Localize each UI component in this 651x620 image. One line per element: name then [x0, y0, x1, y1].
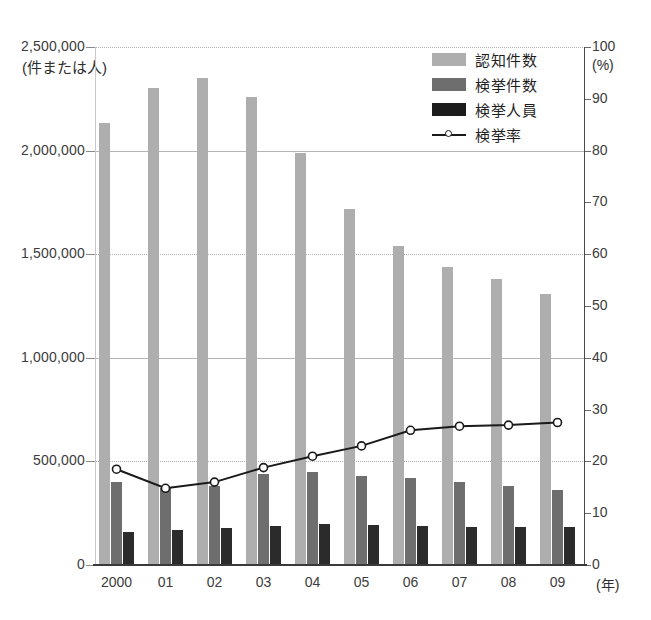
y-tick-right-20: [585, 461, 591, 462]
y-tick-right-50: [585, 306, 591, 307]
bar-09-series1: [552, 490, 563, 565]
y-axis-left-label-500000: 500,000: [33, 452, 85, 468]
y-axis-left-label-1000000: 1,000,000: [21, 349, 85, 365]
legend-item-0: 認知件数: [432, 47, 582, 72]
y-axis-right-label-20: 20: [592, 452, 608, 468]
bar-05-series1: [356, 476, 367, 565]
bar-02-series0: [197, 78, 208, 565]
legend-swatch-icon-1: [432, 78, 466, 91]
y-axis-right-label-30: 30: [592, 401, 608, 417]
y-tick-right-30: [585, 410, 591, 411]
bar-04-series2: [319, 524, 330, 565]
gridline-1000000: [95, 358, 585, 359]
y-tick-right-100: [585, 47, 591, 48]
bar-07-series1: [454, 482, 465, 565]
line-marker-04: [309, 452, 317, 460]
legend-label-3: 検挙率: [475, 124, 522, 145]
y-axis-right-line: [584, 47, 585, 565]
y-axis-right-label-90: 90: [592, 90, 608, 106]
y-tick-left-2000000: [86, 151, 95, 152]
y-axis-right-label-50: 50: [592, 297, 608, 313]
y-tick-right-70: [585, 202, 591, 203]
y-axis-left-label-2500000: 2,500,000: [21, 38, 85, 54]
bar-04-series0: [295, 153, 306, 565]
x-axis-label-09: 09: [528, 574, 588, 590]
bar-2000-series1: [111, 482, 122, 565]
x-axis-line: [93, 564, 587, 566]
legend-label-1: 検挙件数: [475, 74, 537, 95]
y-axis-left-line: [95, 47, 96, 565]
bar-06-series1: [405, 478, 416, 565]
gridline-500000: [95, 461, 585, 462]
bar-09-series2: [564, 527, 575, 565]
y-axis-left-label-0: 0: [77, 556, 85, 572]
gridline-2000000: [95, 151, 585, 152]
legend-line-marker-icon: [432, 128, 466, 141]
y-tick-right-90: [585, 99, 591, 100]
bar-08-series2: [515, 527, 526, 565]
bar-07-series2: [466, 527, 477, 565]
chart-legend: 認知件数検挙件数検挙人員検挙率: [432, 47, 582, 147]
bar-03-series1: [258, 474, 269, 565]
line-marker-08: [505, 421, 513, 429]
bar-06-series0: [393, 246, 404, 565]
legend-item-3: 検挙率: [432, 122, 582, 147]
line-marker-05: [358, 442, 366, 450]
line-marker-03: [260, 464, 268, 472]
line-marker-09: [554, 419, 562, 427]
y-axis-right-label-60: 60: [592, 245, 608, 261]
y-axis-right-label-80: 80: [592, 142, 608, 158]
y-axis-left-label-2000000: 2,000,000: [21, 142, 85, 158]
y-tick-right-40: [585, 358, 591, 359]
y-tick-left-500000: [86, 461, 95, 462]
y-axis-left-label-1500000: 1,500,000: [21, 245, 85, 261]
chart-page: (件または人) (%) (年) 0500,0001,000,0001,500,0…: [0, 0, 651, 620]
y-axis-right-label-10: 10: [592, 504, 608, 520]
bar-05-series2: [368, 525, 379, 565]
line-marker-07: [456, 422, 464, 430]
line-marker-2000: [113, 465, 121, 473]
y-axis-right-label-40: 40: [592, 349, 608, 365]
legend-label-0: 認知件数: [475, 49, 537, 70]
legend-swatch-icon-0: [432, 53, 466, 66]
legend-label-2: 検挙人員: [475, 99, 537, 120]
bar-02-series2: [221, 528, 232, 565]
bar-03-series0: [246, 97, 257, 565]
bar-08-series1: [503, 486, 514, 565]
y-axis-right-label-100: 100: [592, 38, 615, 54]
bar-01-series1: [160, 488, 171, 565]
bar-01-series0: [148, 88, 159, 565]
bar-09-series0: [540, 294, 551, 565]
y-tick-left-1500000: [86, 254, 95, 255]
bar-04-series1: [307, 472, 318, 565]
bar-08-series0: [491, 279, 502, 565]
y-tick-right-10: [585, 513, 591, 514]
x-axis-unit-label: (年): [596, 574, 619, 594]
bar-03-series2: [270, 526, 281, 565]
line-marker-06: [407, 426, 415, 434]
y-axis-right-label-70: 70: [592, 193, 608, 209]
bar-01-series2: [172, 530, 183, 565]
gridline-1500000: [95, 254, 585, 255]
y-tick-right-80: [585, 151, 591, 152]
legend-item-1: 検挙件数: [432, 72, 582, 97]
y-tick-left-1000000: [86, 358, 95, 359]
bar-06-series2: [417, 526, 428, 565]
bar-2000-series2: [123, 532, 134, 565]
bar-2000-series0: [99, 123, 110, 565]
y-tick-right-60: [585, 254, 591, 255]
line-marker-02: [211, 478, 219, 486]
y-axis-right-label-0: 0: [592, 556, 600, 572]
bar-07-series0: [442, 267, 453, 565]
legend-swatch-icon-2: [432, 103, 466, 116]
y-axis-right-unit-label: (%): [592, 57, 614, 73]
bar-02-series1: [209, 486, 220, 565]
y-tick-left-2500000: [86, 47, 95, 48]
bar-05-series0: [344, 209, 355, 565]
legend-item-2: 検挙人員: [432, 97, 582, 122]
